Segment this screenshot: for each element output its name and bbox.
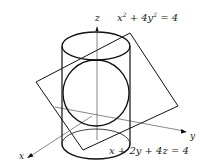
x-axis-label: x [19,152,24,161]
y-axis-label: y [190,132,195,141]
y-axis-arrowhead [181,129,187,134]
plane [36,33,178,150]
diagram-svg [0,0,205,164]
x-axis [29,116,92,157]
diagram-canvas: z y x x2 + 4y2 = 4 x + 2y + 4z = 4 [0,0,205,164]
x-axis-arrowhead [27,153,34,158]
z-axis-label: z [95,14,100,23]
z-axis-arrowhead [96,26,99,31]
cylinder-equation-label: x2 + 4y2 = 4 [117,13,178,23]
cylinder-bottom-ellipse-back [62,129,130,144]
plane-equation-label: x + 2y + 4z = 4 [109,146,189,156]
intersection-ellipse [63,60,129,126]
cylinder-top-ellipse [62,32,130,60]
